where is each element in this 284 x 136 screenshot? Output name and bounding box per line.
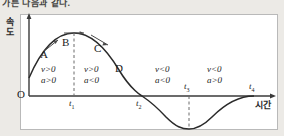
annotation-acceleration-2: a<0 <box>84 75 99 86</box>
point-label-b: B <box>62 36 69 48</box>
tick-sub-t3: 3 <box>187 87 190 93</box>
annotation-acceleration-3: a<0 <box>155 75 170 86</box>
annotation-velocity-4: v<0 <box>207 64 222 75</box>
origin-label: O <box>17 88 25 100</box>
annotation-segment-3: v<0 a<0 <box>155 64 170 86</box>
tick-label-t1: t1 <box>69 98 75 110</box>
annotation-velocity-1: v>0 <box>41 64 56 75</box>
tick-label-t2: t2 <box>136 98 142 110</box>
annotation-velocity-2: v>0 <box>84 64 99 75</box>
tick-sub-t4: 4 <box>252 87 255 93</box>
annotation-acceleration-1: a>0 <box>41 75 56 86</box>
tick-sub-t1: 1 <box>72 104 75 110</box>
y-axis-label-char-2: 도 <box>3 27 16 37</box>
y-axis-label: 속 도 <box>3 17 16 37</box>
point-label-d: D <box>115 62 123 74</box>
annotation-velocity-3: v<0 <box>155 64 170 75</box>
tick-sub-t2: 2 <box>139 104 142 110</box>
annotation-segment-4: v<0 a>0 <box>207 64 222 86</box>
annotation-segment-2: v>0 a<0 <box>84 64 99 86</box>
annotation-segment-1: v>0 a>0 <box>41 64 56 86</box>
tick-label-t3: t3 <box>184 81 190 93</box>
x-axis-label: 시간 <box>255 98 271 111</box>
point-label-a: A <box>40 48 48 60</box>
tick-label-t4: t4 <box>249 81 255 93</box>
graph-figure: 가른 다음과 같다. 속 도 시간 O <box>0 0 284 136</box>
y-axis-label-char-1: 속 <box>3 17 16 27</box>
annotation-acceleration-4: a>0 <box>207 75 222 86</box>
point-label-c: C <box>94 42 101 54</box>
